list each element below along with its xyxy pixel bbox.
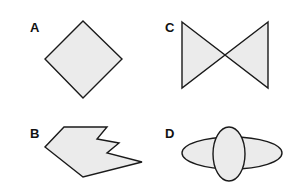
- label-d: D: [165, 126, 174, 141]
- panel-c: C: [165, 20, 268, 88]
- shapes-figure: A C B D: [0, 0, 295, 182]
- panel-d: D: [165, 126, 282, 181]
- vertical-ellipse-shape: [213, 127, 245, 181]
- label-a: A: [30, 20, 40, 35]
- panel-a: A: [30, 20, 122, 98]
- label-c: C: [165, 20, 175, 35]
- bowtie-left-triangle: [182, 22, 225, 88]
- panel-b: B: [30, 126, 142, 177]
- label-b: B: [30, 126, 39, 141]
- diamond-shape: [45, 21, 122, 98]
- irregular-polygon-shape: [45, 127, 142, 177]
- bowtie-right-triangle: [225, 22, 268, 88]
